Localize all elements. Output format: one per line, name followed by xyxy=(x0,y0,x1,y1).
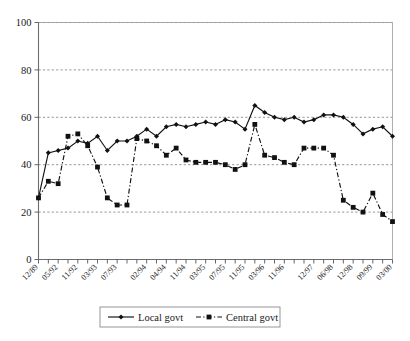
y-tick-label: 0 xyxy=(26,254,31,265)
data-point-marker xyxy=(321,146,326,151)
data-point-marker xyxy=(351,205,356,210)
data-point-marker xyxy=(203,160,208,165)
data-point-marker xyxy=(223,162,228,167)
data-point-marker xyxy=(154,143,159,148)
data-point-marker xyxy=(46,179,51,184)
data-point-marker xyxy=(252,122,257,127)
data-point-marker xyxy=(272,155,277,160)
data-point-marker xyxy=(144,139,149,144)
data-point-marker xyxy=(193,160,198,165)
data-point-marker xyxy=(115,203,120,208)
data-point-marker xyxy=(331,153,336,158)
data-point-marker xyxy=(184,158,189,163)
y-tick-label: 60 xyxy=(21,112,32,123)
chart-legend: Local govtCentral govt xyxy=(100,307,280,327)
data-point-marker xyxy=(125,203,130,208)
y-tick-label: 40 xyxy=(21,159,32,170)
data-point-marker xyxy=(370,191,375,196)
data-point-marker xyxy=(380,212,385,217)
data-point-marker xyxy=(292,162,297,167)
line-chart: 020406080100 12/8905/9211/9203/9307/9302… xyxy=(0,0,410,341)
data-point-marker xyxy=(105,195,110,200)
y-tick-label: 100 xyxy=(16,17,32,28)
data-point-marker xyxy=(233,167,238,172)
y-tick-label: 80 xyxy=(21,65,32,76)
chart-background xyxy=(0,0,410,341)
data-point-marker xyxy=(262,153,267,158)
data-point-marker xyxy=(164,153,169,158)
data-point-marker xyxy=(75,131,80,136)
data-point-marker xyxy=(243,162,248,167)
data-point-marker xyxy=(311,146,316,151)
legend-label: Local govt xyxy=(138,312,183,323)
data-point-marker xyxy=(213,160,218,165)
legend-marker-sample xyxy=(207,315,212,320)
chart-container: 020406080100 12/8905/9211/9203/9307/9302… xyxy=(0,0,410,341)
data-point-marker xyxy=(95,165,100,170)
data-point-marker xyxy=(56,181,61,186)
data-point-marker xyxy=(361,210,366,215)
data-point-marker xyxy=(66,134,71,139)
data-point-marker xyxy=(390,219,395,224)
data-point-marker xyxy=(174,146,179,151)
data-point-marker xyxy=(341,198,346,203)
data-point-marker xyxy=(282,160,287,165)
data-point-marker xyxy=(302,146,307,151)
legend-label: Central govt xyxy=(226,312,278,323)
y-tick-label: 20 xyxy=(21,207,32,218)
